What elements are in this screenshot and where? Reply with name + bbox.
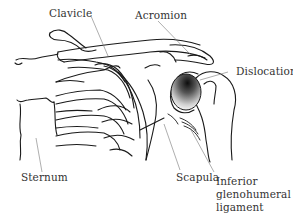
inferior-glenohumeral-ligament	[168, 114, 200, 140]
acromion-leader-line	[158, 21, 190, 54]
dislocation-shading	[171, 74, 201, 110]
rib-cage	[56, 59, 147, 160]
sternum-label: Sternum	[21, 171, 68, 183]
sternum-bone	[15, 54, 58, 160]
clavicle-bone	[49, 30, 205, 62]
ligament-label-line3: ligament	[216, 201, 264, 213]
acromion-bone	[145, 45, 213, 68]
ligament-label-line1: Inferior	[216, 175, 258, 187]
clavicle-leader-line	[91, 16, 108, 56]
ligament-label-line2: glenohumeral	[216, 188, 291, 200]
scapula-bone	[140, 80, 164, 160]
sternum-leader-line	[36, 138, 42, 172]
dislocation-label: Dislocation	[236, 65, 293, 77]
shoulder-dislocation-illustration	[0, 0, 293, 220]
scapula-leader-line	[164, 124, 180, 170]
ligament-leader-line	[190, 128, 214, 172]
acromion-label: Acromion	[135, 9, 187, 21]
scapula-label: Scapula	[176, 171, 219, 183]
clavicle-label: Clavicle	[49, 7, 92, 19]
